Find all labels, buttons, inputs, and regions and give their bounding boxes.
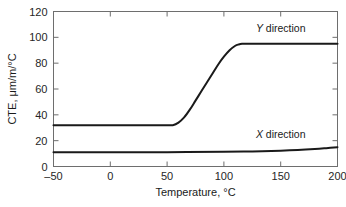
x-axis-title: Temperature, °C <box>155 186 235 198</box>
x-tick-label: 200 <box>328 170 346 182</box>
y-tick-label: 80 <box>35 57 47 69</box>
y-tick-label: 100 <box>29 31 47 43</box>
y-tick-label: 20 <box>35 135 47 147</box>
y-tick-label: 40 <box>35 109 47 121</box>
y-tick-label: 0 <box>41 161 47 173</box>
x-tick-label: 0 <box>107 170 113 182</box>
y-axis-title: CTE, μm/m/°C <box>6 53 18 124</box>
x-tick-label: 100 <box>215 170 233 182</box>
series-annotation: X direction <box>255 128 306 140</box>
x-tick-label: 150 <box>272 170 290 182</box>
y-tick-label: 60 <box>35 83 47 95</box>
cte-vs-temperature-chart: –50050100150200 020406080100120 Temperat… <box>0 0 346 207</box>
chart-figure: –50050100150200 020406080100120 Temperat… <box>0 0 346 207</box>
x-tick-label: 50 <box>161 170 173 182</box>
series-annotation: Y direction <box>256 22 306 34</box>
y-tick-label: 120 <box>29 6 47 18</box>
